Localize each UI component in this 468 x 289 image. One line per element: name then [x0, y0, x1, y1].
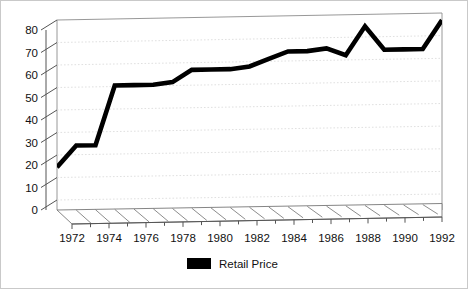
y-tick-60: 60 — [25, 65, 57, 81]
y-tick-label: 0 — [32, 204, 38, 216]
plot-back-wall — [57, 13, 442, 210]
y-tick-50: 50 — [25, 88, 57, 104]
x-tick-label: 1984 — [281, 232, 307, 244]
y-tick-70: 70 — [25, 43, 57, 59]
y-axis: 80 70 60 50 40 30 — [25, 20, 57, 216]
x-tick-label: 1980 — [207, 232, 233, 244]
x-tick-label: 1982 — [244, 232, 270, 244]
y-tick-30: 30 — [25, 133, 57, 149]
x-tick-label: 1978 — [170, 232, 196, 244]
x-tick-label: 1990 — [392, 232, 418, 244]
y-tick-80: 80 — [25, 20, 57, 36]
y-tick-label: 70 — [25, 47, 38, 59]
legend-label-retail-price: Retail Price — [219, 258, 278, 270]
y-tick-label: 10 — [25, 182, 38, 194]
y-tick-20: 20 — [25, 155, 57, 171]
chart-container: 80 70 60 50 40 30 — [0, 0, 468, 289]
y-tick-label: 30 — [25, 137, 38, 149]
x-tick-label: 1988 — [355, 232, 381, 244]
y-tick-label: 40 — [25, 114, 38, 126]
y-tick-label: 60 — [25, 69, 38, 81]
x-tick-label: 1976 — [133, 232, 159, 244]
y-tick-40: 40 — [25, 110, 57, 126]
y-tick-label: 50 — [25, 92, 38, 104]
y-tick-0: 0 — [32, 200, 57, 216]
y-tick-10: 10 — [25, 178, 57, 194]
x-tick-label: 1986 — [318, 232, 344, 244]
y-tick-label: 20 — [25, 159, 38, 171]
retail-price-line-chart: 80 70 60 50 40 30 — [0, 0, 468, 289]
legend: Retail Price — [187, 258, 278, 270]
x-tick-label: 1972 — [59, 232, 85, 244]
x-tick-label: 1974 — [96, 232, 122, 244]
x-tick-label: 1992 — [429, 232, 455, 244]
legend-swatch-retail-price — [187, 258, 211, 269]
y-tick-label: 80 — [25, 24, 38, 36]
